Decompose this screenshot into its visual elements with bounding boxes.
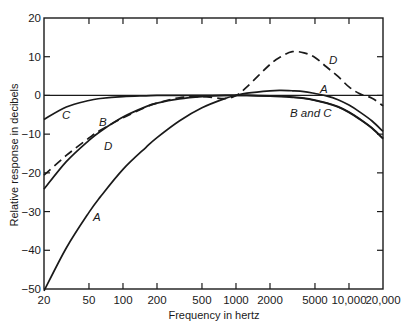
- curve-label-d-high: D: [329, 54, 337, 66]
- y-tick-label: 0: [35, 89, 41, 101]
- y-tick-label: 20: [28, 12, 41, 24]
- curve-c: [44, 95, 383, 138]
- y-tick-label: −10: [21, 128, 41, 140]
- curve-label-b: B: [99, 116, 107, 128]
- y-axis-tick-labels: 20100−10−20−30−40−50: [21, 12, 41, 295]
- b-and-c-text: B and C: [290, 107, 332, 119]
- curve-label-d-low: D: [104, 140, 112, 152]
- weighting-curves-chart: 20100−10−20−30−40−50 2050100200500100020…: [0, 0, 411, 326]
- y-tick-label: −40: [21, 244, 41, 256]
- curves: [44, 51, 383, 290]
- x-tick-label: 50: [83, 294, 96, 306]
- curve-label-b-and-c: B and C: [290, 107, 332, 119]
- curve-a: [44, 90, 383, 291]
- x-tick-label: 100: [113, 294, 132, 306]
- x-tick-label: 5000: [302, 294, 328, 306]
- y-tick-label: 10: [28, 51, 41, 63]
- curve-label-a-high: A: [319, 83, 328, 95]
- x-tick-label: 10,000: [331, 294, 366, 306]
- curve-d: [44, 51, 383, 175]
- x-tick-label: 500: [192, 294, 211, 306]
- y-tick-label: −30: [21, 206, 41, 218]
- x-axis-title: Frequency in hertz: [168, 309, 259, 321]
- y-tick-label: −20: [21, 167, 41, 179]
- x-tick-label: 20: [38, 294, 51, 306]
- curve-label-a-low: A: [92, 211, 101, 223]
- y-axis-title: Relative response in decibels: [8, 83, 20, 227]
- x-tick-label: 20,000: [365, 294, 400, 306]
- x-tick-label: 2000: [257, 294, 283, 306]
- x-tick-label: 200: [147, 294, 166, 306]
- x-tick-label: 1000: [223, 294, 249, 306]
- curve-b: [44, 95, 383, 189]
- curve-label-c: C: [62, 109, 71, 121]
- x-axis-tick-labels: 205010020050010002000500010,00020,000: [38, 294, 401, 306]
